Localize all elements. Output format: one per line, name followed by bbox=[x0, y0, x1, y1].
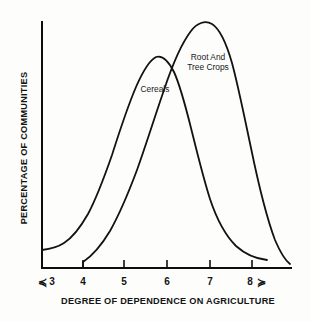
x-tick-label-5: 5 bbox=[121, 276, 127, 287]
x-tick-label-6: 6 bbox=[164, 276, 170, 287]
less-than-or-equal-icon: ≼ bbox=[38, 276, 47, 288]
x-axis-ticks bbox=[83, 260, 252, 268]
greater-than-or-equal-icon: ≽ bbox=[257, 276, 266, 288]
curve-root-and-tree-crops bbox=[83, 22, 290, 268]
x-axis-title: DEGREE OF DEPENDENCE ON AGRICULTURE bbox=[61, 296, 275, 306]
chart-canvas: Cereals Root And Tree Crops 3 4 5 6 7 8 … bbox=[0, 0, 310, 322]
series-label-root-and-tree-crops-line1: Root And bbox=[191, 52, 226, 62]
figure-container: Cereals Root And Tree Crops 3 4 5 6 7 8 … bbox=[0, 0, 310, 322]
x-tick-label-7: 7 bbox=[207, 276, 213, 287]
x-tick-label-4: 4 bbox=[80, 276, 86, 287]
series-label-cereals: Cereals bbox=[141, 84, 170, 94]
x-tick-label-8: 8 bbox=[247, 276, 253, 287]
x-tick-label-3: 3 bbox=[49, 276, 55, 287]
y-axis-title: PERCENTAGE OF COMMUNITIES bbox=[19, 72, 29, 225]
series-label-root-and-tree-crops-line2: Tree Crops bbox=[187, 62, 229, 72]
